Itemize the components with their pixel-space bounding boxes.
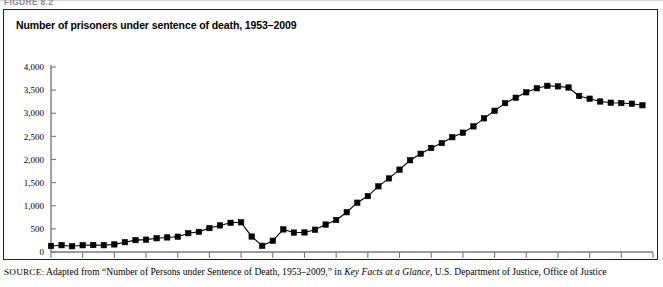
data-point-marker [249,234,254,239]
data-point-marker [513,95,518,100]
data-point-marker [376,184,381,189]
data-point-marker [566,85,571,90]
data-series-prisoners [48,83,645,249]
data-point-marker [608,100,613,105]
y-tick-label: 1,500 [24,178,45,188]
data-point-marker [207,225,212,230]
data-point-marker [291,230,296,235]
y-tick-label: 3,500 [24,85,45,95]
chart-plot-area: 05001,0001,5002,0002,5003,0003,5004,000 … [4,10,659,261]
data-point-marker [48,243,53,248]
data-point-marker [175,234,180,239]
data-point-marker [323,222,328,227]
line-chart-svg: 05001,0001,5002,0002,5003,0003,5004,000 … [4,10,659,261]
data-point-marker [545,83,550,88]
data-point-marker [270,238,275,243]
data-point-marker [217,223,222,228]
data-point-marker [597,99,602,104]
data-point-marker [587,96,592,101]
scan-edge-top [0,0,663,1]
data-point-marker [418,151,423,156]
data-point-marker [112,242,117,247]
y-tick-label: 3,000 [24,108,45,118]
data-point-marker [460,130,465,135]
data-point-marker [312,227,317,232]
data-point-marker [502,100,507,105]
data-point-marker [186,231,191,236]
data-point-marker [122,240,127,245]
data-point-marker [439,140,444,145]
data-point-marker [302,230,307,235]
source-publication-title: Key Facts at a Glance [344,266,430,277]
data-point-marker [154,236,159,241]
data-point-marker [619,100,624,105]
data-point-marker [164,235,169,240]
data-point-marker [576,93,581,98]
data-point-marker [133,237,138,242]
data-point-marker [69,244,74,249]
data-point-marker [80,243,85,248]
data-point-marker [260,243,265,248]
data-point-marker [91,242,96,247]
data-point-marker [471,124,476,129]
data-point-marker [143,237,148,242]
data-point-marker [344,210,349,215]
source-text-after: , U.S. Department of Justice, Office of … [430,266,606,277]
x-axis: 1953195619591962196519681971197419771980… [43,252,659,261]
data-point-marker [386,176,391,181]
figure-root: FIGURE 8.2 Number of prisoners under sen… [0,0,663,287]
figure-box: Number of prisoners under sentence of de… [3,9,658,260]
data-point-marker [629,101,634,106]
y-tick-label: 2,500 [24,132,45,142]
y-tick-label: 4,000 [24,62,45,72]
data-point-marker [397,167,402,172]
data-point-marker [534,86,539,91]
data-point-marker [429,145,434,150]
data-point-marker [640,103,645,108]
figure-number-label: FIGURE 8.2 [4,0,53,7]
y-tick-label: 0 [40,247,45,257]
source-label: SOURCE: [4,267,44,277]
data-point-marker [101,243,106,248]
data-point-marker [481,116,486,121]
data-point-marker [228,220,233,225]
data-point-marker [555,84,560,89]
data-point-marker [450,135,455,140]
source-note: SOURCE: Adapted from “Number of Persons … [4,266,660,278]
data-point-marker [492,108,497,113]
y-tick-label: 2,000 [24,155,45,165]
y-axis: 05001,0001,5002,0002,5003,0003,5004,000 [24,62,56,257]
data-point-marker [524,90,529,95]
y-tick-label: 1,000 [24,201,45,211]
data-point-marker [333,217,338,222]
data-point-marker [407,158,412,163]
data-point-marker [365,193,370,198]
source-text-before: Adapted from “Number of Persons under Se… [44,266,344,277]
data-point-marker [281,227,286,232]
y-tick-label: 500 [31,224,45,234]
data-point-marker [196,229,201,234]
data-point-marker [59,243,64,248]
data-point-marker [355,200,360,205]
data-point-marker [238,220,243,225]
